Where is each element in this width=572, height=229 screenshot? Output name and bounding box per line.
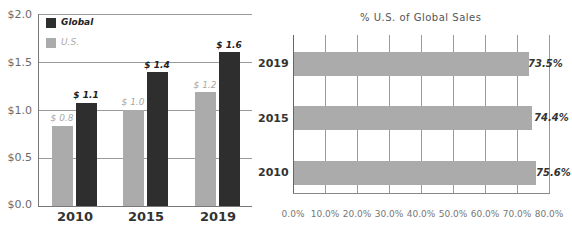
xtick-label: 50.0% [436, 209, 470, 219]
value-label-2015: 74.4% [534, 112, 569, 123]
value-label-global-2019: $ 1.6 [212, 40, 246, 50]
bar-2010 [294, 161, 536, 185]
ytick-label: $2.0 [2, 8, 32, 21]
value-label-us-2015: $ 1.0 [116, 97, 150, 107]
ytick-label: $0.0 [2, 198, 32, 211]
legend-label-us: U.S. [61, 37, 79, 47]
xtick-label: 20.0% [340, 209, 374, 219]
chart-title: % U.S. of Global Sales [360, 12, 481, 23]
ytick-label: $1.5 [2, 56, 32, 69]
value-label-us-2010: $ 0.8 [45, 113, 79, 123]
bar-2015 [294, 106, 532, 130]
ytick-label: $1.0 [2, 104, 32, 117]
xtick-label: 70.0% [500, 209, 534, 219]
xtick-label: 80.0% [532, 209, 566, 219]
bar-us-2019 [195, 92, 216, 206]
xtick-label: 30.0% [372, 209, 406, 219]
xtick-label: 10.0% [308, 209, 342, 219]
x-category-label: 2010 [50, 209, 100, 224]
bar-global-2015 [147, 72, 168, 206]
bar-global-2010 [76, 103, 97, 206]
y-category-label: 2010 [258, 166, 288, 179]
legend-label-global: Global [61, 17, 93, 27]
bar-global-2019 [219, 52, 240, 206]
xtick-label: 40.0% [404, 209, 438, 219]
xtick-label: 60.0% [468, 209, 502, 219]
gridline [38, 14, 252, 15]
x-axis-line [293, 193, 550, 194]
x-axis-line [38, 206, 252, 207]
ytick-label: $0.5 [2, 151, 32, 164]
xtick-label: 0.0% [276, 209, 310, 219]
value-label-2010: 75.6% [536, 167, 571, 178]
y-category-label: 2015 [258, 112, 288, 125]
bar-us-2010 [52, 126, 73, 206]
bar-us-2015 [123, 110, 144, 206]
value-label-us-2019: $ 1.2 [188, 80, 222, 90]
x-category-label: 2019 [193, 209, 243, 224]
value-label-global-2015: $ 1.4 [140, 60, 174, 70]
y-category-label: 2019 [258, 57, 288, 70]
y-axis-line [38, 14, 39, 206]
value-label-2019: 73.5% [528, 58, 563, 69]
bar-2019 [294, 52, 529, 76]
legend-swatch-global [46, 18, 56, 28]
value-label-global-2010: $ 1.1 [69, 90, 103, 100]
x-category-label: 2015 [121, 209, 171, 224]
legend-swatch-us [46, 38, 56, 48]
